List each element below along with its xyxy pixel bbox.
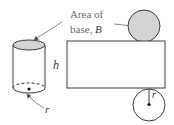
cylinder xyxy=(13,40,45,93)
cylinder-bottom-hidden-edge xyxy=(13,83,45,88)
area-leader-arrow-cylinder xyxy=(34,22,62,40)
cylinder-base-center-dot xyxy=(27,87,30,90)
cylinder-net-diagram: Area of base, B h r r xyxy=(0,0,174,125)
cylinder-radius-label: r xyxy=(45,103,50,115)
radius-leader-arrow xyxy=(27,94,44,108)
diagram-canvas: Area of base, B h r r xyxy=(0,0,174,125)
area-variable-b: B xyxy=(95,23,102,35)
cylinder-top-base xyxy=(13,40,45,50)
area-label-line2: base, B xyxy=(70,23,102,35)
height-label: h xyxy=(53,58,59,72)
net-radius-label: r xyxy=(152,89,156,100)
net-top-circle xyxy=(128,10,160,42)
net-bottom-center-dot xyxy=(147,103,150,106)
area-label-line1: Area of xyxy=(70,8,104,20)
net-lateral-rectangle xyxy=(67,41,165,88)
area-label-prefix: base, xyxy=(70,23,95,35)
